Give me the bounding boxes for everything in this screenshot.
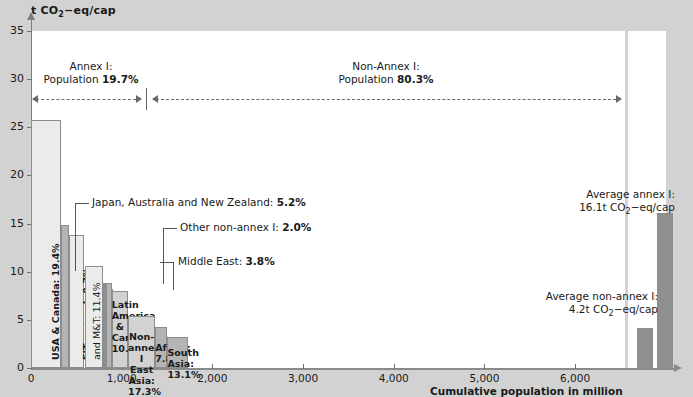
x-tick bbox=[575, 364, 576, 369]
annex-bracket-arrow-left-icon bbox=[32, 95, 38, 103]
x-tick-label: 2,000 bbox=[197, 372, 227, 384]
bar-japan-australia-and-new-zealand[interactable] bbox=[61, 225, 69, 368]
japan-leader-vertical bbox=[75, 203, 76, 271]
y-tick-label: 0 bbox=[0, 363, 24, 373]
nonannex-bracket-line1: Non-Annex I: bbox=[339, 60, 434, 73]
x-tick-label: 6,000 bbox=[560, 372, 590, 384]
nonannex-bracket-label: Non-Annex I: Population 80.3% bbox=[339, 60, 434, 86]
annex-pop-pre: Population bbox=[44, 73, 103, 85]
middleeast-leader-horizontal bbox=[160, 262, 174, 263]
average-nonannex-line2: 4.2t CO2−eq/cap bbox=[546, 303, 658, 320]
nonannex-bracket-line bbox=[156, 99, 616, 100]
other-callout-value: 2.0% bbox=[282, 221, 311, 233]
nonannex-pop-value: 80.3% bbox=[397, 73, 433, 85]
annex-pop-value: 19.7% bbox=[102, 73, 138, 85]
annex-bracket-line1: Annex I: bbox=[44, 60, 139, 73]
y-tick-label: 10 bbox=[0, 267, 24, 277]
middleeast-callout-value: 3.8% bbox=[246, 255, 275, 267]
japan-callout-text: Japan, Australia and New Zealand: bbox=[92, 196, 277, 208]
average-annex-note: Average annex I: 16.1t CO2−eq/cap bbox=[579, 188, 675, 218]
y-tick-label: 30 bbox=[0, 74, 24, 84]
chart-canvas: t CO2−eq/cap 05101520253035 01,0002,0003… bbox=[0, 0, 693, 397]
x-tick bbox=[303, 364, 304, 369]
x-tick-label: 4,000 bbox=[379, 372, 409, 384]
x-tick-label: 5,000 bbox=[469, 372, 499, 384]
y-axis-title-pre: t CO bbox=[31, 4, 58, 17]
annex-bracket-arrow-right-icon bbox=[136, 95, 142, 103]
nonannex-pop-pre: Population bbox=[339, 73, 398, 85]
japan-callout-value: 5.2% bbox=[277, 196, 306, 208]
average-annex-unit: −eq/cap bbox=[631, 201, 675, 213]
y-tick-label: 15 bbox=[0, 219, 24, 229]
y-axis-arrow-icon bbox=[27, 12, 35, 20]
bar-label: LatinAmerica&Carribean:10.3% bbox=[112, 299, 128, 354]
y-tick bbox=[27, 79, 32, 80]
y-axis-title-post: −eq/cap bbox=[64, 4, 116, 17]
x-tick-label: 3,000 bbox=[288, 372, 318, 384]
nonannex-bracket-arrow-right-icon bbox=[616, 95, 622, 103]
middle-east-callout: Middle East: 3.8% bbox=[178, 255, 275, 268]
annex-divider bbox=[146, 88, 147, 110]
y-tick-label: 25 bbox=[0, 122, 24, 132]
annex-bracket-line2: Population 19.7% bbox=[44, 73, 139, 86]
middleeast-callout-text: Middle East: bbox=[178, 255, 246, 267]
average-nonannex-value: 4.2t CO bbox=[569, 303, 609, 315]
nonannex-bracket-line2: Population 80.3% bbox=[339, 73, 434, 86]
average-nonannex-unit: −eq/cap bbox=[614, 303, 658, 315]
y-axis-title: t CO2−eq/cap bbox=[31, 4, 116, 19]
middleeast-leader-vertical bbox=[173, 262, 174, 290]
other-leader-horizontal bbox=[163, 228, 177, 229]
other-callout-text: Other non-annex I: bbox=[180, 221, 282, 233]
other-leader-vertical bbox=[163, 228, 164, 284]
japan-callout: Japan, Australia and New Zealand: 5.2% bbox=[92, 196, 306, 209]
annex-bracket-label: Annex I: Population 19.7% bbox=[44, 60, 139, 86]
x-axis-title: Cumulative population in million bbox=[430, 385, 623, 397]
other-nonannex-callout: Other non-annex I: 2.0% bbox=[180, 221, 311, 234]
y-tick bbox=[27, 31, 32, 32]
y-tick-label: 35 bbox=[0, 26, 24, 36]
x-tick-label: 0 bbox=[28, 372, 35, 384]
average-annex-value: 16.1t CO bbox=[579, 201, 625, 213]
average-bar-average-annex-i[interactable] bbox=[657, 213, 673, 368]
x-tick bbox=[484, 364, 485, 369]
bar-label: Africa: 7.8% bbox=[155, 342, 167, 364]
bar-label: USA & Canada: 19.4% bbox=[50, 128, 61, 360]
japan-leader-horizontal bbox=[75, 203, 89, 204]
nonannex-bracket-arrow-left-icon bbox=[152, 95, 158, 103]
average-bar-average-non-annex-i[interactable] bbox=[637, 328, 653, 368]
annex-bracket-line bbox=[36, 99, 136, 100]
x-tick bbox=[394, 364, 395, 369]
average-nonannex-note: Average non-annex I: 4.2t CO2−eq/cap bbox=[546, 290, 658, 320]
x-tick bbox=[212, 364, 213, 369]
bar-label: South Asia: 13.1% bbox=[167, 347, 188, 380]
average-annex-line2: 16.1t CO2−eq/cap bbox=[579, 201, 675, 218]
y-tick-label: 5 bbox=[0, 315, 24, 325]
average-nonannex-line1: Average non-annex I: bbox=[546, 290, 658, 303]
average-annex-line1: Average annex I: bbox=[579, 188, 675, 201]
x-axis-arrow-icon bbox=[674, 364, 682, 372]
bar-label: Non-annex IEast Asia: 17.3% bbox=[128, 331, 155, 397]
y-tick-label: 20 bbox=[0, 170, 24, 180]
